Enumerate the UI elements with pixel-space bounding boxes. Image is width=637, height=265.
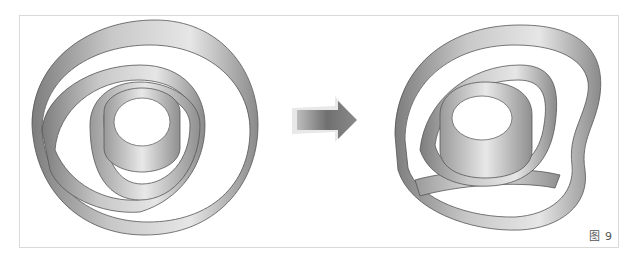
figure-illustration <box>0 0 637 265</box>
right-spiral-ribbon <box>395 25 601 230</box>
left-spiral-ribbon <box>32 20 258 235</box>
inner-opening-deformed <box>452 96 512 140</box>
right-arrow-icon <box>292 96 357 142</box>
figure-caption: 图 9 <box>589 227 614 243</box>
inner-opening <box>114 98 170 146</box>
